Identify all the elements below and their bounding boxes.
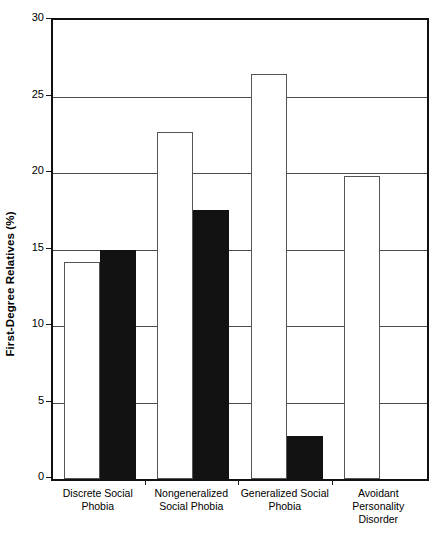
y-axis-title: First-Degree Relatives (%) xyxy=(4,154,16,414)
y-axis-title-container: First-Degree Relatives (%) xyxy=(0,150,22,430)
y-axis-tick-label: 10 xyxy=(18,318,44,329)
gridline xyxy=(53,173,427,174)
x-axis-category-label-line: Disorder xyxy=(324,513,434,526)
y-axis-tick-label: 0 xyxy=(18,471,44,482)
y-axis-tick-label: 20 xyxy=(18,165,44,176)
chart-figure: First-Degree Relatives (%) 051015202530 … xyxy=(0,0,436,535)
plot-area xyxy=(51,18,429,481)
x-axis-tick-mark xyxy=(145,479,146,485)
bar-filled-bar-0 xyxy=(100,250,136,480)
y-axis-tick-label: 5 xyxy=(18,395,44,406)
gridline xyxy=(53,97,427,98)
bar-filled-bar-2 xyxy=(287,436,323,479)
y-axis-tick-label: 15 xyxy=(18,242,44,253)
y-axis-tick-label: 25 xyxy=(18,89,44,100)
bar-open-bar-1 xyxy=(157,132,193,479)
y-axis-tick-label: 30 xyxy=(18,12,44,23)
bar-filled-bar-1 xyxy=(193,210,229,479)
x-axis-tick-mark xyxy=(238,479,239,485)
bar-open-bar-0 xyxy=(64,262,100,479)
x-axis-category-label-line: Avoidant xyxy=(324,487,434,500)
plot-inner xyxy=(53,20,427,479)
x-axis-category-label: AvoidantPersonalityDisorder xyxy=(324,487,434,526)
x-axis-category-label-line: Personality xyxy=(324,500,434,513)
bar-open-bar-2 xyxy=(251,74,287,479)
x-axis-tick-mark xyxy=(332,479,333,485)
bar-open-bar-3 xyxy=(344,176,380,479)
